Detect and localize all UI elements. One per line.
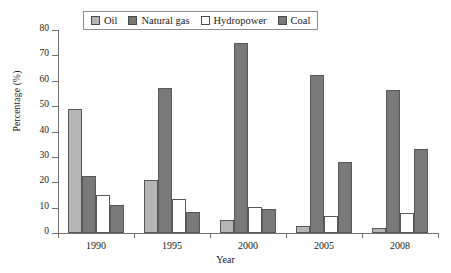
- bar-hydropower-2000: [248, 207, 262, 233]
- legend-swatch-hydropower: [201, 16, 210, 25]
- y-axis-tick: 30: [52, 157, 58, 158]
- legend-item-hydropower: Hydropower: [201, 15, 267, 26]
- legend-label-coal: Coal: [291, 15, 311, 26]
- y-axis-tick: 80: [52, 30, 58, 31]
- x-axis-tick: [438, 233, 439, 238]
- bar-coal-1995: [186, 212, 200, 233]
- legend-item-coal: Coal: [278, 15, 311, 26]
- bar-hydropower-1990: [96, 195, 110, 233]
- bar-coal-1990: [110, 205, 124, 233]
- x-axis-tick-label: 1995: [162, 240, 182, 251]
- x-axis-tick-label: 1990: [86, 240, 106, 251]
- y-axis-tick: 10: [52, 208, 58, 209]
- legend-swatch-natural-gas: [128, 16, 137, 25]
- x-axis-tick: [362, 233, 363, 238]
- x-axis-tick: [58, 233, 59, 238]
- chart-figure: Oil Natural gas Hydropower Coal Percenta…: [0, 0, 451, 273]
- bar-oil-1990: [68, 109, 82, 233]
- legend-label-oil: Oil: [104, 15, 117, 26]
- y-axis-tick: 20: [52, 182, 58, 183]
- y-axis-tick-label: 20: [40, 175, 50, 185]
- x-axis-line: [58, 233, 438, 234]
- y-axis-tick-label: 80: [40, 23, 50, 33]
- legend-swatch-coal: [278, 16, 287, 25]
- y-axis-tick-label: 70: [40, 48, 50, 58]
- x-axis-tick: [286, 233, 287, 238]
- bar-hydropower-1995: [172, 199, 186, 233]
- bar-coal-2008: [414, 149, 428, 233]
- x-axis-tick: [210, 233, 211, 238]
- bar-oil-2000: [220, 220, 234, 233]
- y-axis-tick: 70: [52, 55, 58, 56]
- x-axis-tick: [134, 233, 135, 238]
- bar-natural-gas-2005: [310, 75, 324, 233]
- bar-oil-2008: [372, 228, 386, 233]
- x-axis-tick-label: 2008: [390, 240, 410, 251]
- y-axis-tick-label: 0: [44, 226, 49, 236]
- chart-legend: Oil Natural gas Hydropower Coal: [83, 11, 318, 30]
- x-axis-title: Year: [0, 254, 451, 265]
- bar-coal-2000: [262, 209, 276, 233]
- plot-area: 01020304050607080 19901995200020052008: [58, 30, 438, 234]
- y-axis-line: [58, 30, 59, 234]
- bar-natural-gas-1990: [82, 176, 96, 233]
- y-axis-tick-label: 40: [40, 125, 50, 135]
- y-axis-tick-label: 60: [40, 74, 50, 84]
- x-axis-tick-label: 2005: [314, 240, 334, 251]
- legend-item-natural-gas: Natural gas: [128, 15, 189, 26]
- legend-item-oil: Oil: [91, 15, 117, 26]
- x-axis-tick-label: 2000: [238, 240, 258, 251]
- bar-natural-gas-2008: [386, 90, 400, 233]
- y-axis-title: Percentage (%): [12, 51, 22, 151]
- legend-label-natural-gas: Natural gas: [141, 15, 189, 26]
- bar-hydropower-2008: [400, 213, 414, 233]
- y-axis-tick: 40: [52, 132, 58, 133]
- bar-hydropower-2005: [324, 216, 338, 233]
- bar-oil-1995: [144, 180, 158, 233]
- y-axis-tick-label: 50: [40, 99, 50, 109]
- y-axis-tick: 50: [52, 106, 58, 107]
- legend-label-hydropower: Hydropower: [214, 15, 267, 26]
- y-axis-tick: 60: [52, 81, 58, 82]
- y-axis-tick-label: 30: [40, 150, 50, 160]
- bar-coal-2005: [338, 162, 352, 233]
- y-axis-tick-label: 10: [40, 201, 50, 211]
- bar-natural-gas-1995: [158, 88, 172, 233]
- legend-swatch-oil: [91, 16, 100, 25]
- bar-oil-2005: [296, 226, 310, 233]
- bar-natural-gas-2000: [234, 43, 248, 233]
